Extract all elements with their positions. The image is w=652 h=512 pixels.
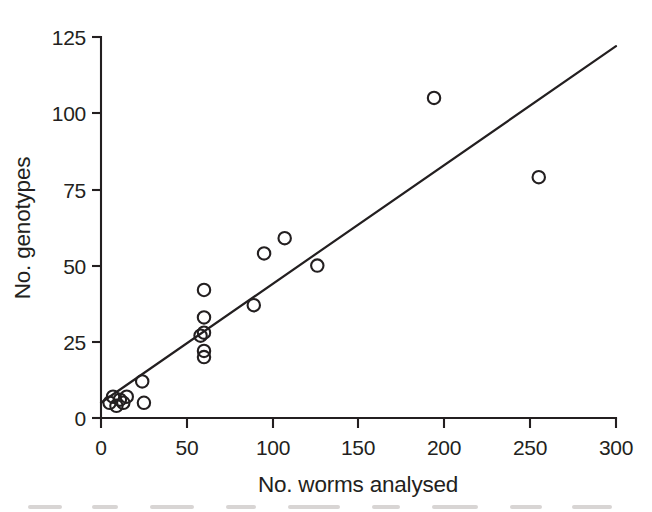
x-tick-label-150: 150 xyxy=(341,436,375,459)
x-tick-label-100: 100 xyxy=(256,436,290,459)
data-point xyxy=(533,171,545,183)
data-point xyxy=(248,299,260,311)
chart-canvas: 0 25 50 75 100 125 0 50 100 150 200 250 … xyxy=(0,0,652,512)
data-point xyxy=(428,92,440,104)
axes-group xyxy=(101,37,616,418)
data-point xyxy=(311,259,323,271)
x-axis-tick-labels: 0 50 100 150 200 250 300 xyxy=(95,436,633,459)
data-point xyxy=(258,247,270,259)
data-point xyxy=(278,232,290,244)
regression-fit-line xyxy=(101,46,616,403)
y-tick-label-50: 50 xyxy=(63,255,86,278)
x-tick-label-50: 50 xyxy=(176,436,199,459)
y-axis-ticks xyxy=(92,37,101,418)
x-tick-label-200: 200 xyxy=(427,436,461,459)
x-axis-ticks xyxy=(101,418,616,428)
data-point xyxy=(138,397,150,409)
y-tick-label-125: 125 xyxy=(52,26,86,49)
y-tick-label-25: 25 xyxy=(63,331,86,354)
data-point xyxy=(198,284,210,296)
x-tick-label-0: 0 xyxy=(95,436,106,459)
caption-remnant xyxy=(28,505,612,509)
x-tick-label-300: 300 xyxy=(599,436,633,459)
y-axis-title: No. genotypes xyxy=(10,157,35,300)
x-axis-title: No. worms analysed xyxy=(258,472,458,497)
y-tick-label-100: 100 xyxy=(52,102,86,125)
data-point xyxy=(198,311,210,323)
x-tick-label-250: 250 xyxy=(513,436,547,459)
y-tick-label-0: 0 xyxy=(75,407,86,430)
data-point-layer xyxy=(103,92,545,412)
y-axis-tick-labels: 0 25 50 75 100 125 xyxy=(52,26,86,430)
data-point xyxy=(136,375,148,387)
y-tick-label-75: 75 xyxy=(63,179,86,202)
scatter-plot-figure: 0 25 50 75 100 125 0 50 100 150 200 250 … xyxy=(0,0,652,512)
